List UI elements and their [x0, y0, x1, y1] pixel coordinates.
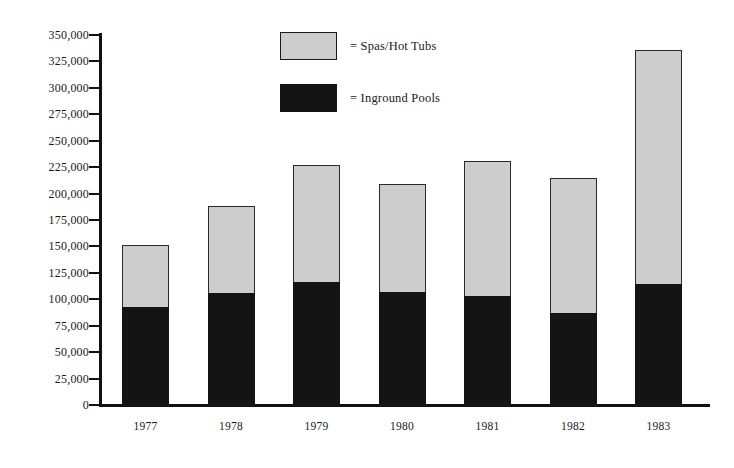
x-axis-tick-label: 1977 — [104, 420, 187, 432]
y-axis-tick — [89, 193, 100, 195]
bar-segment-spas-hot-tubs[interactable] — [635, 50, 682, 285]
legend-item-label: = Spas/Hot Tubs — [350, 40, 436, 53]
y-axis-tick-label: 250,000 — [5, 135, 89, 147]
y-axis-tick-label-wrap: 75,000 — [0, 320, 89, 332]
y-axis-tick-label: 125,000 — [5, 267, 89, 279]
bar-segment-spas-hot-tubs[interactable] — [208, 206, 255, 293]
y-axis-tick — [89, 298, 100, 300]
bar-segment-spas-hot-tubs[interactable] — [464, 161, 511, 296]
bar-segment-inground-pools[interactable] — [208, 293, 255, 407]
y-axis-tick — [89, 60, 100, 62]
y-axis-tick-label-wrap: 0 — [0, 399, 89, 411]
y-axis-tick-label-wrap: 150,000 — [0, 240, 89, 252]
legend-swatch-spas-hot-tubs-icon — [280, 32, 337, 60]
bar-group[interactable] — [293, 165, 340, 407]
bar-segment-spas-hot-tubs[interactable] — [122, 245, 169, 306]
x-axis-tick-label: 1978 — [190, 420, 273, 432]
y-axis-tick-label: 200,000 — [5, 188, 89, 200]
bar-segment-inground-pools[interactable] — [379, 292, 426, 407]
bar-group[interactable] — [379, 184, 426, 407]
bar-group[interactable] — [635, 50, 682, 407]
bar-group[interactable] — [464, 161, 511, 407]
bar-segment-spas-hot-tubs[interactable] — [293, 165, 340, 282]
y-axis-tick — [89, 113, 100, 115]
stacked-bar-chart: 350,000325,000300,000275,000250,000225,0… — [0, 0, 734, 468]
y-axis-tick-label: 225,000 — [5, 161, 89, 173]
y-axis-tick-label: 150,000 — [5, 240, 89, 252]
x-axis-tick-label: 1982 — [532, 420, 615, 432]
y-axis-tick-label: 300,000 — [5, 82, 89, 94]
y-axis-tick — [89, 34, 100, 36]
y-axis-tick-label: 275,000 — [5, 108, 89, 120]
bar-group[interactable] — [122, 245, 169, 407]
y-axis-tick — [89, 245, 100, 247]
y-axis-tick-label-wrap: 250,000 — [0, 135, 89, 147]
x-axis-tick-label: 1983 — [617, 420, 700, 432]
y-axis-tick — [89, 325, 100, 327]
y-axis-tick-label-wrap: 50,000 — [0, 346, 89, 358]
y-axis-tick-label-wrap: 325,000 — [0, 55, 89, 67]
y-axis-tick-label: 100,000 — [5, 293, 89, 305]
y-axis-tick-label-wrap: 225,000 — [0, 161, 89, 173]
bar-segment-spas-hot-tubs[interactable] — [379, 184, 426, 292]
legend-item-label: = Inground Pools — [350, 92, 440, 105]
legend-item[interactable]: = Spas/Hot Tubs — [280, 32, 436, 60]
y-axis-tick — [89, 272, 100, 274]
y-axis-tick-label-wrap: 100,000 — [0, 293, 89, 305]
y-axis-tick — [89, 351, 100, 353]
x-axis-tick-label: 1980 — [361, 420, 444, 432]
y-axis-tick-label-wrap: 275,000 — [0, 108, 89, 120]
y-axis-tick-label-wrap: 125,000 — [0, 267, 89, 279]
y-axis-tick-label: 325,000 — [5, 55, 89, 67]
bar-segment-inground-pools[interactable] — [464, 296, 511, 407]
x-axis-tick-label: 1981 — [446, 420, 529, 432]
y-axis-tick — [89, 219, 100, 221]
y-axis-tick — [89, 378, 100, 380]
legend-swatch-inground-pools-icon — [280, 84, 337, 112]
bar-group[interactable] — [550, 178, 597, 407]
x-axis-tick-label: 1979 — [275, 420, 358, 432]
y-axis-tick-label: 75,000 — [5, 320, 89, 332]
y-axis-tick — [89, 87, 100, 89]
y-axis-tick-label-wrap: 175,000 — [0, 214, 89, 226]
bar-segment-spas-hot-tubs[interactable] — [550, 178, 597, 313]
legend-item[interactable]: = Inground Pools — [280, 84, 440, 112]
bar-segment-inground-pools[interactable] — [293, 282, 340, 407]
y-axis-tick-label-wrap: 300,000 — [0, 82, 89, 94]
y-axis-tick-label-wrap: 200,000 — [0, 188, 89, 200]
y-axis-tick — [89, 140, 100, 142]
bar-segment-inground-pools[interactable] — [550, 313, 597, 407]
y-axis-tick — [89, 404, 100, 406]
y-axis-tick-label: 0 — [5, 399, 89, 411]
bar-group[interactable] — [208, 206, 255, 407]
y-axis-tick-label-wrap: 350,000 — [0, 29, 89, 41]
y-axis-tick — [89, 166, 100, 168]
bar-segment-inground-pools[interactable] — [122, 307, 169, 407]
y-axis-tick-label-wrap: 25,000 — [0, 373, 89, 385]
y-axis-tick-label: 25,000 — [5, 373, 89, 385]
y-axis-tick-label: 175,000 — [5, 214, 89, 226]
y-axis-tick-label: 50,000 — [5, 346, 89, 358]
bar-segment-inground-pools[interactable] — [635, 284, 682, 407]
y-axis-tick-label: 350,000 — [5, 29, 89, 41]
